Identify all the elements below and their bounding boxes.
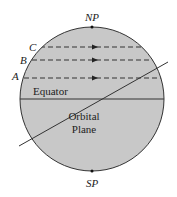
equator-label: Equator bbox=[33, 85, 68, 97]
north-pole-label: NP bbox=[84, 11, 99, 23]
latitude-label-c: C bbox=[29, 41, 37, 53]
orbital-plane-label-line2: Plane bbox=[72, 123, 97, 135]
latitude-label-a: A bbox=[11, 70, 19, 82]
orbital-plane-label-line1: Orbital bbox=[68, 110, 99, 122]
south-pole-dot bbox=[91, 170, 94, 173]
north-pole-dot bbox=[91, 26, 94, 29]
latitude-label-b: B bbox=[20, 54, 27, 66]
earth-orbital-diagram: NP SP C B A Equator Orbital Plane bbox=[0, 0, 177, 197]
south-pole-label: SP bbox=[86, 177, 99, 189]
